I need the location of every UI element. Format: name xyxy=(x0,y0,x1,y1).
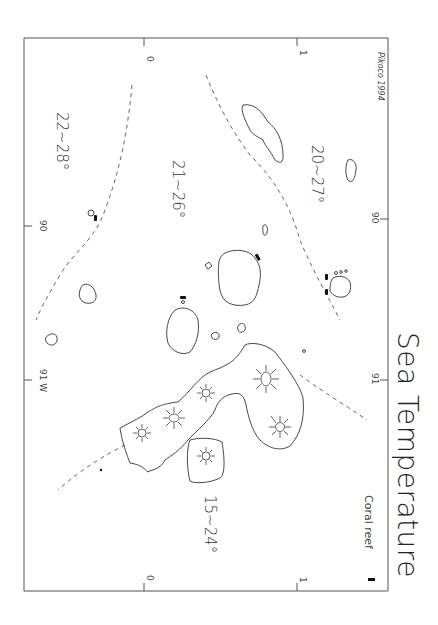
volcano-icon xyxy=(253,365,279,393)
islet xyxy=(345,270,348,273)
sea-temperature-map: 0 1 0 1 90 91 W 90 91 xyxy=(0,0,438,625)
islet-small xyxy=(211,332,219,339)
coral-reef-mark xyxy=(325,289,328,295)
zone-label-central: 21~26° xyxy=(169,160,187,218)
islet xyxy=(335,272,338,275)
volcano-icon xyxy=(133,424,151,442)
map-title: Sea Temperature xyxy=(391,332,424,578)
volcano-icon xyxy=(197,447,215,465)
islet xyxy=(340,271,343,274)
islet-central xyxy=(263,225,268,235)
islet-small xyxy=(238,323,246,332)
tick-label-left-91: 91 W xyxy=(38,369,48,392)
islet xyxy=(205,262,212,269)
tick-label-bottom-1: 1 xyxy=(298,577,308,583)
zone-label-east: 20~27° xyxy=(308,145,326,203)
island-west-central xyxy=(167,308,199,354)
coral-reef-mark xyxy=(255,253,261,261)
tick-label-right-91: 91 xyxy=(370,373,380,384)
tick-label-right-90: 90 xyxy=(370,212,380,224)
island-east-small xyxy=(346,160,356,182)
island-north-west xyxy=(79,284,96,303)
signature: Pikoco 1994 xyxy=(376,52,385,101)
island-south-east xyxy=(330,276,351,297)
legend-coral-reef-icon xyxy=(368,578,375,581)
island-fernandina xyxy=(187,438,224,482)
rock xyxy=(100,469,102,471)
coral-reef-mark xyxy=(94,215,97,221)
islet xyxy=(182,301,185,304)
legend-coral-reef-label: Coral reef xyxy=(362,495,375,550)
isotherm-line-south-east xyxy=(300,375,367,420)
isotherm-line-south-west xyxy=(58,445,125,490)
islet-north xyxy=(88,210,94,216)
tick-label-top-1: 1 xyxy=(298,50,308,56)
island-central-large xyxy=(218,250,260,305)
tick-label-bottom-0: 0 xyxy=(145,575,155,581)
zone-label-south-west: 15~24° xyxy=(201,495,219,553)
zone-label-north-west: 22~28° xyxy=(53,112,71,170)
coral-reef-mark xyxy=(325,274,328,280)
island-east-large xyxy=(242,105,283,163)
volcano-icon xyxy=(163,407,185,429)
island-far-west xyxy=(46,334,58,345)
tick-label-left-90: 90 xyxy=(38,220,48,232)
tick-label-top-0: 0 xyxy=(145,56,155,62)
volcano-icon xyxy=(269,416,291,438)
coral-reef-mark xyxy=(180,296,186,299)
islet xyxy=(303,350,306,353)
volcano-icon xyxy=(197,384,215,402)
island-isabela xyxy=(120,343,303,472)
